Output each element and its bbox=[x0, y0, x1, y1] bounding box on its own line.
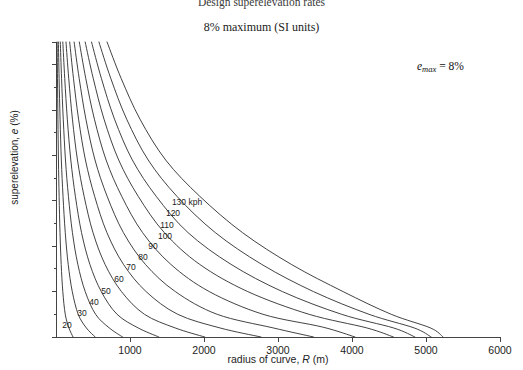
curve-label-80: 80 bbox=[138, 252, 147, 262]
speed-curve-90 bbox=[79, 42, 355, 337]
curve-label-90: 90 bbox=[148, 241, 157, 251]
y-axis-label-unit: (%) bbox=[9, 110, 20, 128]
curve-label-20: 20 bbox=[62, 320, 71, 330]
chart-figure: Design superelevation rates 8% maximum (… bbox=[0, 0, 523, 370]
y-axis-label-text: superelevation, bbox=[9, 134, 20, 205]
curve-label-60: 60 bbox=[114, 274, 123, 284]
y-axis-label-symbol: e bbox=[9, 129, 20, 135]
curve-label-130-kph: 130 kph bbox=[172, 197, 202, 207]
curve-label-110: 110 bbox=[160, 220, 174, 230]
y-axis-label: superelevation, e (%) bbox=[9, 78, 20, 238]
x-axis-label-symbol: R bbox=[302, 353, 310, 365]
speed-curve-50 bbox=[63, 42, 159, 337]
speed-curve-110 bbox=[92, 42, 415, 337]
x-axis-label-text: radius of curve, bbox=[228, 353, 303, 365]
speed-curve-60 bbox=[66, 42, 205, 337]
curve-label-100: 100 bbox=[158, 231, 172, 241]
curve-label-30: 30 bbox=[77, 308, 86, 318]
x-axis-label: radius of curve, R (m) bbox=[56, 353, 500, 365]
speed-curve-70 bbox=[70, 42, 261, 337]
curve-label-120: 120 bbox=[166, 208, 180, 218]
x-axis-label-unit: (m) bbox=[310, 353, 329, 365]
curve-label-40: 40 bbox=[89, 297, 98, 307]
speed-curve-120 bbox=[99, 42, 431, 337]
curve-label-50: 50 bbox=[101, 286, 110, 296]
speed-curve-130 bbox=[107, 42, 443, 337]
speed-curve-100 bbox=[85, 42, 393, 337]
speed-curve-30 bbox=[58, 42, 95, 337]
curve-label-70: 70 bbox=[126, 262, 135, 272]
